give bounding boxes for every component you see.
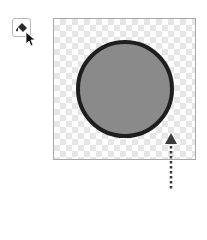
- dotted-arrow-up-icon: [164, 133, 178, 190]
- circle-shape[interactable]: [76, 40, 174, 138]
- mouse-cursor-icon: [25, 31, 37, 47]
